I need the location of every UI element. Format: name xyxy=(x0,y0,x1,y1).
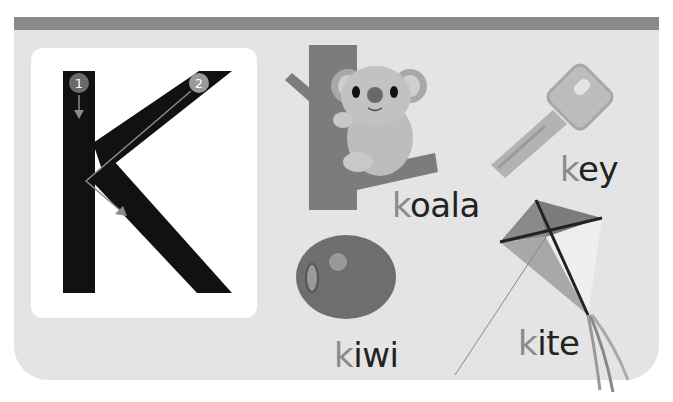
word-koala: koala xyxy=(392,188,480,222)
word-kite: kite xyxy=(518,326,579,360)
kiwi-icon xyxy=(296,235,396,319)
kite-icon xyxy=(455,200,628,392)
word-key: key xyxy=(560,152,618,186)
word-kiwi: kiwi xyxy=(334,338,398,372)
